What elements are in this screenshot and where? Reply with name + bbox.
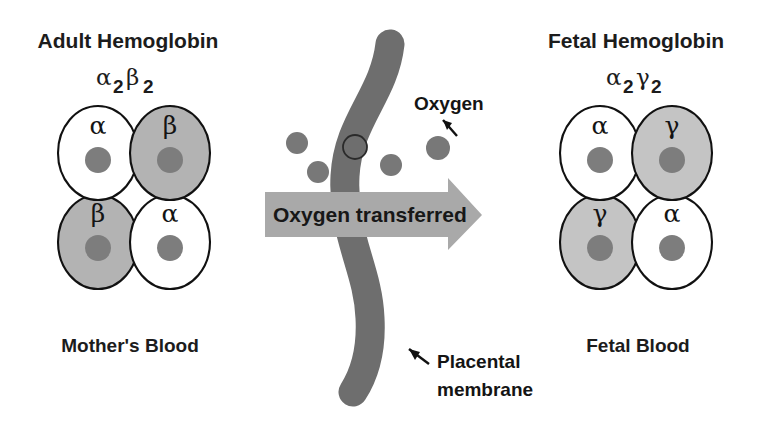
oxygen-molecule-dot-5 xyxy=(426,136,450,160)
oxygen-molecule-dot-1 xyxy=(286,132,308,154)
fetal-subunit-top-left: α xyxy=(560,106,640,200)
oxygen-molecule-dot-2 xyxy=(307,161,329,183)
fetal-subunit-top-right-heme xyxy=(659,147,685,173)
placental-membrane-label-line2: membrane xyxy=(437,379,533,400)
fetal-subunit-top-left-label: α xyxy=(592,111,609,140)
adult-subunit-bottom-left-label: β xyxy=(91,199,105,228)
placental-membrane-label-line1: Placental xyxy=(437,351,520,372)
oxygen-transferred-label: Oxygen transferred xyxy=(273,203,467,226)
fetal-subunit-top-left-heme xyxy=(587,147,613,173)
oxygen-molecule-dot-3-crossing-membrane xyxy=(343,135,367,159)
adult-subunit-top-right-label: β xyxy=(163,111,177,140)
fetal-formula-alpha-subscript: 2 xyxy=(623,76,634,97)
adult-formula-alpha-glyph: α xyxy=(96,64,112,90)
fetal-subunit-bottom-left: γ xyxy=(560,195,640,289)
placental-membrane-callout: Placental membrane xyxy=(409,349,533,400)
adult-hemoglobin-heading: Adult Hemoglobin xyxy=(38,29,219,52)
fetal-formula-gamma-subscript: 2 xyxy=(651,76,662,97)
placental-transfer-group: Oxygen Oxygen transferred Placental memb… xyxy=(265,44,533,400)
adult-hemoglobin-formula: α 2 β 2 xyxy=(96,64,154,97)
adult-subunit-bottom-right-heme xyxy=(157,235,183,261)
fetal-subunit-bottom-right: α xyxy=(632,195,712,289)
hemoglobin-oxygen-transfer-diagram: Adult Hemoglobin α 2 β 2 β α xyxy=(0,0,762,426)
adult-formula-beta-subscript: 2 xyxy=(143,76,154,97)
fetal-blood-label: Fetal Blood xyxy=(586,335,689,356)
adult-subunit-top-left-heme xyxy=(85,147,111,173)
adult-subunit-top-right-heme xyxy=(157,147,183,173)
adult-subunit-top-left: α xyxy=(58,106,138,200)
adult-formula-alpha-subscript: 2 xyxy=(113,76,124,97)
oxygen-transferred-arrow: Oxygen transferred xyxy=(265,178,482,250)
fetal-subunit-top-right-label: γ xyxy=(665,111,680,140)
adult-hemoglobin-panel: Adult Hemoglobin α 2 β 2 β α xyxy=(38,29,219,356)
fetal-subunit-top-right: γ xyxy=(632,106,712,200)
oxygen-callout-label: Oxygen xyxy=(414,93,484,114)
adult-subunit-bottom-left: β xyxy=(58,195,138,289)
fetal-subunit-bottom-right-label: α xyxy=(664,199,681,228)
placental-membrane-arrow-head xyxy=(409,349,420,360)
fetal-subunit-bottom-left-heme xyxy=(587,235,613,261)
fetal-subunit-bottom-right-heme xyxy=(659,235,685,261)
adult-subunit-top-left-label: α xyxy=(90,111,107,140)
fetal-hemoglobin-heading: Fetal Hemoglobin xyxy=(548,29,724,52)
adult-formula-beta-glyph: β xyxy=(126,64,139,90)
fetal-subunit-bottom-left-label: γ xyxy=(593,199,608,228)
adult-subunit-top-right: β xyxy=(130,106,210,200)
fetal-hemoglobin-panel: Fetal Hemoglobin α 2 γ 2 γ α xyxy=(548,29,724,356)
fetal-formula-alpha-glyph: α xyxy=(606,64,622,90)
adult-subunit-bottom-right-label: α xyxy=(162,199,179,228)
fetal-hemoglobin-formula: α 2 γ 2 xyxy=(606,64,662,97)
adult-subunit-bottom-left-heme xyxy=(85,235,111,261)
mothers-blood-label: Mother's Blood xyxy=(61,335,199,356)
adult-subunit-bottom-right: α xyxy=(130,195,210,289)
fetal-formula-gamma-glyph: γ xyxy=(636,64,650,90)
diagram-canvas: Adult Hemoglobin α 2 β 2 β α xyxy=(0,0,762,426)
oxygen-molecule-dot-4 xyxy=(380,154,402,176)
